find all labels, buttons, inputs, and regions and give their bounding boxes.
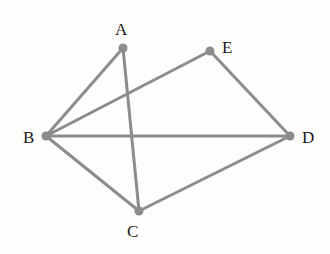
point-d: [286, 132, 295, 141]
point-c: [135, 207, 144, 216]
point-label-d: D: [302, 129, 314, 146]
segment-ac: [123, 48, 139, 211]
segments-group: [46, 48, 290, 211]
segment-be: [46, 51, 210, 136]
point-b: [42, 132, 51, 141]
point-e: [206, 47, 215, 56]
point-label-c: C: [127, 223, 138, 240]
point-label-e: E: [222, 39, 232, 56]
segment-ed: [210, 51, 290, 136]
segment-ab: [46, 48, 123, 136]
points-group: [42, 44, 295, 216]
segment-bc: [46, 136, 139, 211]
point-a: [119, 44, 128, 53]
point-label-b: B: [23, 129, 34, 146]
diagram-canvas: [0, 0, 330, 254]
geometry-diagram: A E B D C: [0, 0, 330, 254]
point-label-a: A: [115, 21, 127, 38]
segment-cd: [139, 136, 290, 211]
